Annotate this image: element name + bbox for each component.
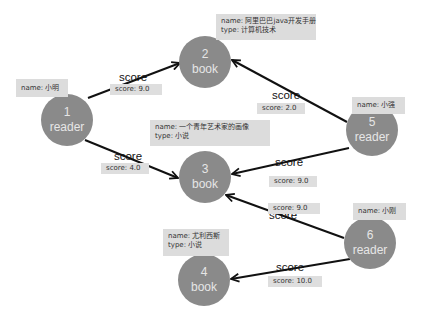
edge-1-3-props: score: 4.0 [101, 163, 149, 174]
edge-label: score [272, 89, 300, 101]
node-5-props: name: 小强 [352, 97, 405, 114]
svg-text:reader: reader [50, 120, 85, 134]
node-3-book[interactable]: 3 book [179, 151, 231, 203]
node-4-props: name: 尤利西斯 type: 小说 [163, 229, 229, 256]
svg-text:6: 6 [367, 228, 374, 242]
edge-label: score [276, 261, 304, 273]
edge-5-2-props: score: 2.0 [257, 103, 305, 114]
edge-label: score [275, 156, 303, 168]
edge-label: score [119, 71, 147, 83]
edge-label: score [114, 150, 142, 162]
edge-5-3[interactable]: score [232, 148, 349, 174]
svg-text:2: 2 [202, 47, 209, 61]
svg-text:3: 3 [202, 162, 209, 176]
edge-5-3-props: score: 9.0 [269, 176, 317, 187]
edge-1-2-props: score: 9.0 [110, 84, 162, 95]
edge-6-3[interactable]: score [226, 195, 344, 238]
node-2-props: name: 阿里巴巴java开发手册 type: 计算机技术 [216, 14, 316, 40]
svg-text:book: book [192, 177, 219, 191]
node-1-props: name: 小明 [16, 79, 68, 97]
node-3-props: name: 一个青年艺术家的画像 type: 小说 [150, 120, 270, 146]
svg-text:5: 5 [369, 115, 376, 129]
svg-text:book: book [191, 280, 218, 294]
svg-text:reader: reader [353, 243, 388, 257]
node-1-reader[interactable]: 1 reader [41, 94, 93, 146]
svg-text:4: 4 [201, 265, 208, 279]
svg-text:reader: reader [355, 130, 390, 144]
node-2-book[interactable]: 2 book [179, 36, 231, 88]
svg-text:1: 1 [64, 105, 71, 119]
node-6-reader[interactable]: 6 reader [344, 217, 396, 269]
node-4-book[interactable]: 4 book [178, 254, 230, 306]
graph-canvas: score score score score score score 1 re… [0, 0, 423, 320]
svg-text:book: book [192, 62, 219, 76]
edge-6-4-props: score: 10.0 [268, 276, 322, 287]
node-6-props: name: 小刚 [353, 203, 406, 220]
edge-6-3-props: score: 9.0 [268, 203, 320, 214]
